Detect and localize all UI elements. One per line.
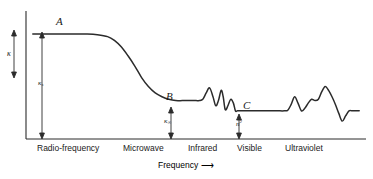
x-axis-title-group: Frequency ⟶ [158, 160, 214, 170]
region-label-b: B [166, 91, 173, 102]
x-tick-label-visible: Visible [237, 144, 262, 153]
kappa-infinity-subscript: ∞ [167, 120, 171, 125]
kappa-s-subscript: s [41, 82, 43, 87]
kappa-s-label: κs [38, 80, 43, 87]
x-axis-title: Frequency [158, 160, 198, 170]
frequency-arrow-icon: ⟶ [201, 160, 214, 170]
region-label-a: A [56, 16, 63, 27]
dielectric-curve [33, 34, 359, 121]
kappa-infinity-label: κ∞ [164, 118, 171, 125]
region-label-c: C [243, 100, 250, 111]
x-tick-label-ultraviolet: Ultraviolet [285, 144, 323, 153]
dielectric-frequency-figure: κ A B C κs κ∞ n2 Radio-frequency Microwa… [0, 0, 373, 179]
y-axis-label: κ [7, 50, 11, 58]
x-tick-label-infrared: Infrared [188, 144, 217, 153]
n-squared-label: n2 [236, 119, 242, 128]
n-exponent: 2 [240, 119, 243, 124]
x-tick-label-radio-frequency: Radio-frequency [37, 144, 99, 153]
x-tick-label-microwave: Microwave [123, 144, 164, 153]
kappa-total-arrow [12, 30, 17, 78]
